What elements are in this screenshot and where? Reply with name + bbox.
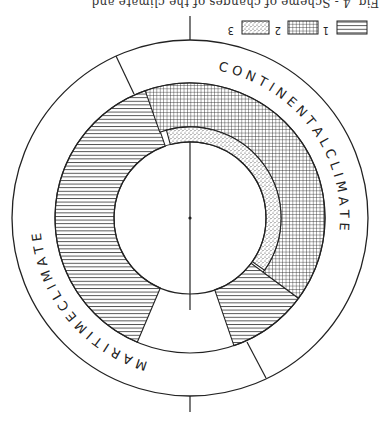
- legend-item-1: 1: [323, 21, 367, 36]
- svg-text:1: 1: [323, 25, 329, 36]
- svg-text:3: 3: [228, 25, 234, 36]
- ring-divider-upper-left: [116, 56, 134, 94]
- legend: 1 2 3: [228, 21, 367, 36]
- legend-item-2: 2: [275, 21, 318, 36]
- ring-divider-lower-right: [247, 342, 266, 378]
- center-point: [188, 216, 191, 219]
- segment-horizontal-lines: [55, 90, 165, 342]
- svg-text:2: 2: [275, 25, 281, 36]
- legend-item-3: 3: [228, 21, 269, 36]
- climate-ring-diagram: C O N T I N E N T A L C L I M A T E M A …: [0, 0, 379, 426]
